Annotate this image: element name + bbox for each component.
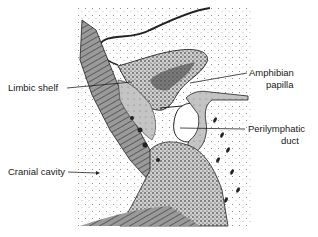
label-amphibian-papilla-line2: papilla (266, 79, 293, 90)
label-amphibian-papilla-line1: Amphibian (249, 67, 294, 78)
label-limbic-shelf: Limbic shelf (8, 82, 58, 93)
label-perilymphatic-duct-line1: Perilymphatic (248, 123, 305, 134)
label-perilymphatic-duct-line2: duct (281, 135, 299, 146)
label-cranial-cavity: Cranial cavity (8, 166, 65, 177)
anatomical-illustration (0, 0, 318, 237)
